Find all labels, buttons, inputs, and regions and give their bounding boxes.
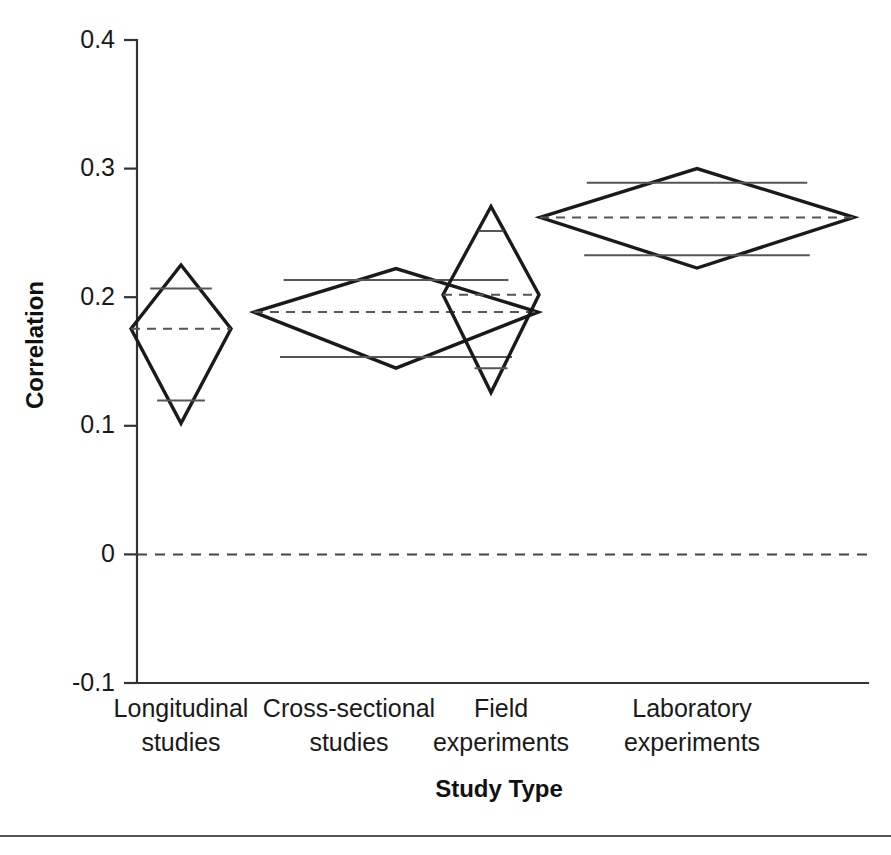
x-tick-label-longitudinal-line1: Longitudinal bbox=[114, 694, 249, 722]
x-tick-label-longitudinal-line2: studies bbox=[141, 728, 220, 756]
y-tick-label: 0.1 bbox=[80, 410, 115, 438]
y-axis-ticks bbox=[124, 40, 137, 683]
y-tick-label: -0.1 bbox=[72, 668, 115, 696]
diamond-group-laboratory-experiments bbox=[540, 169, 854, 268]
x-tick-label-field-line1: Field bbox=[474, 694, 528, 722]
mean-diamond bbox=[254, 269, 538, 369]
y-tick-label: 0 bbox=[101, 539, 115, 567]
y-tick-label: 0.2 bbox=[80, 282, 115, 310]
x-tick-label-laboratory-line2: experiments bbox=[624, 728, 760, 756]
y-axis-title: Correlation bbox=[21, 281, 48, 409]
mean-diamond bbox=[443, 207, 539, 393]
x-tick-label-cross-sectional-line2: studies bbox=[309, 728, 388, 756]
y-tick-label: 0.4 bbox=[80, 25, 115, 53]
x-axis-title: Study Type bbox=[435, 775, 563, 802]
diamond-group-longitudinal-studies bbox=[131, 265, 231, 423]
y-tick-label: 0.3 bbox=[80, 153, 115, 181]
diamond-group-field-experiments bbox=[443, 207, 539, 393]
x-tick-label-field-line2: experiments bbox=[433, 728, 569, 756]
x-tick-label-cross-sectional-line1: Cross-sectional bbox=[263, 694, 435, 722]
diamond-plot-svg: 0.4 0.3 0.2 0.1 0 -0.1 bbox=[0, 0, 891, 855]
diamond-group-cross-sectional-studies bbox=[254, 269, 538, 369]
x-tick-label-laboratory-line1: Laboratory bbox=[632, 694, 752, 722]
chart-figure: 0.4 0.3 0.2 0.1 0 -0.1 bbox=[0, 0, 891, 855]
x-axis-category-labels: Longitudinal studies Cross-sectional stu… bbox=[114, 694, 761, 756]
